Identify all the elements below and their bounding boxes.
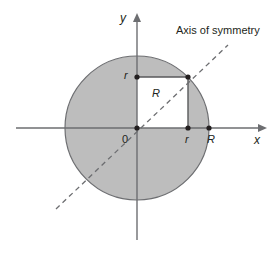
inscribed-square-fill (137, 77, 188, 128)
x-axis-arrowhead (258, 124, 267, 132)
point-R-on-x-axis (206, 125, 211, 130)
diagonal-radius-label: R (152, 88, 160, 99)
y-axis-arrowhead (133, 13, 141, 22)
y-axis-label: y (120, 12, 126, 24)
geometry-diagram (0, 0, 280, 254)
point-origin (134, 125, 139, 130)
r-on-x-axis-label: r (185, 134, 189, 145)
x-axis-label: x (254, 134, 260, 146)
axis-of-symmetry-label: Axis of symmetry (176, 25, 260, 36)
point-r-on-y-axis (134, 74, 139, 79)
origin-label: 0 (122, 134, 128, 145)
point-r-on-x-axis (185, 125, 190, 130)
r-on-y-axis-label: r (124, 70, 128, 81)
point-square-corner (185, 74, 190, 79)
R-on-x-axis-label: R (207, 134, 215, 145)
figure-canvas: y x 0 r r R R Axis of symmetry (0, 0, 280, 254)
